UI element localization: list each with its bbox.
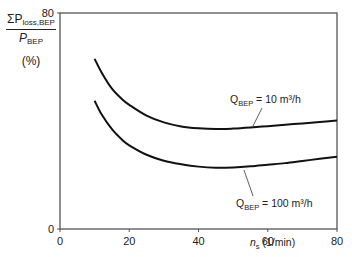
leader-line-1 — [244, 170, 253, 196]
x-tick-label: 80 — [331, 235, 343, 247]
series-annotations: QBEP = 10 m³/hQBEP = 100 m³/h — [230, 93, 313, 212]
series-annotation-0: QBEP = 10 m³/h — [230, 93, 301, 108]
series-annotation-1: QBEP = 100 m³/h — [236, 197, 313, 212]
x-tick-label: 20 — [123, 235, 135, 247]
x-axis-label: ns (1/min) — [250, 236, 295, 251]
series-lines — [95, 59, 337, 168]
x-tick-label: 40 — [192, 235, 204, 247]
line-chart: 020406080080 QBEP = 10 m³/hQBEP = 100 m³… — [0, 0, 352, 257]
series-line-1 — [95, 101, 337, 168]
y-tick-label: 80 — [42, 7, 54, 19]
y-tick-label: 0 — [48, 223, 54, 235]
leader-line-0 — [253, 108, 262, 126]
x-tick-label: 0 — [57, 235, 63, 247]
